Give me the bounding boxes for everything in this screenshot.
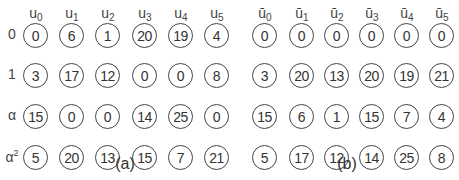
circle-node: 20 — [289, 63, 314, 88]
circle-node: 15 — [252, 104, 277, 129]
circle-node: 7 — [168, 145, 193, 170]
column-label: ū3 — [357, 5, 387, 23]
circle-node: 0 — [324, 23, 349, 48]
row-label: 1 — [4, 66, 20, 82]
column-label-subscript: 4 — [182, 12, 188, 23]
row-label: α — [4, 107, 20, 123]
column-label-base: ū — [400, 5, 408, 21]
column-label-subscript: 0 — [266, 12, 272, 23]
circle-node: 0 — [359, 23, 384, 48]
circle-node: 0 — [289, 23, 314, 48]
column-label-base: u — [65, 5, 73, 21]
circle-node: 8 — [429, 145, 454, 170]
circle-node: 4 — [204, 23, 229, 48]
row-label: 0 — [4, 26, 20, 42]
column-label: u4 — [166, 5, 196, 23]
column-label-subscript: 1 — [303, 12, 309, 23]
column-label: u5 — [202, 5, 232, 23]
circle-node: 0 — [132, 63, 157, 88]
circle-node: 12 — [95, 63, 120, 88]
column-label-base: ū — [435, 5, 443, 21]
panel-caption: (a) — [105, 155, 145, 173]
column-label-base: ū — [365, 5, 373, 21]
circle-node: 15 — [359, 104, 384, 129]
circle-node: 3 — [252, 63, 277, 88]
column-label-base: u — [210, 5, 218, 21]
circle-node: 0 — [23, 23, 48, 48]
circle-node: 20 — [359, 63, 384, 88]
circle-node: 19 — [168, 23, 193, 48]
column-label: ū2 — [322, 5, 352, 23]
column-label: ū1 — [287, 5, 317, 23]
column-label-base: ū — [295, 5, 303, 21]
circle-node: 1 — [324, 104, 349, 129]
circle-node: 3 — [23, 63, 48, 88]
circle-node: 1 — [95, 23, 120, 48]
circle-node: 25 — [394, 145, 419, 170]
column-label-subscript: 3 — [373, 12, 379, 23]
row-label-base: 0 — [8, 26, 16, 42]
column-label-subscript: 2 — [338, 12, 344, 23]
circle-node: 0 — [95, 104, 120, 129]
column-label-subscript: 5 — [218, 12, 224, 23]
row-label-superscript: 2 — [14, 148, 19, 158]
column-label: u2 — [93, 5, 123, 23]
circle-node: 4 — [429, 104, 454, 129]
panel-a: u0u1u2u3u4u501αα206120194317120081500142… — [0, 0, 230, 180]
column-label-subscript: 3 — [146, 12, 152, 23]
circle-node: 0 — [204, 104, 229, 129]
column-label: ū5 — [427, 5, 457, 23]
circle-node: 8 — [204, 63, 229, 88]
circle-node: 0 — [59, 104, 84, 129]
panel-caption: (b) — [327, 155, 367, 173]
circle-node: 19 — [394, 63, 419, 88]
panel-b: ū0ū1ū2ū3ū4ū50000003201320192115611574517… — [230, 0, 459, 180]
row-label: α2 — [4, 148, 20, 165]
column-label: ū4 — [392, 5, 422, 23]
circle-node: 7 — [394, 104, 419, 129]
circle-node: 5 — [23, 145, 48, 170]
column-label-subscript: 1 — [73, 12, 79, 23]
row-label-base: α — [8, 107, 16, 123]
circle-node: 0 — [429, 23, 454, 48]
column-label-subscript: 5 — [443, 12, 449, 23]
column-label: u3 — [130, 5, 160, 23]
circle-node: 25 — [168, 104, 193, 129]
row-label-base: α — [5, 149, 13, 165]
row-label-base: 1 — [8, 66, 16, 82]
column-label-base: ū — [330, 5, 338, 21]
circle-node: 14 — [132, 104, 157, 129]
column-label: ū0 — [250, 5, 280, 23]
column-label-base: u — [174, 5, 182, 21]
circle-node: 15 — [23, 104, 48, 129]
column-label: u0 — [21, 5, 51, 23]
column-label-subscript: 4 — [408, 12, 414, 23]
circle-node: 0 — [394, 23, 419, 48]
column-label-base: u — [138, 5, 146, 21]
column-label-subscript: 2 — [109, 12, 115, 23]
circle-node: 17 — [289, 145, 314, 170]
column-label-base: u — [29, 5, 37, 21]
column-label-subscript: 0 — [37, 12, 43, 23]
circle-node: 6 — [289, 104, 314, 129]
circle-node: 13 — [324, 63, 349, 88]
circle-node: 21 — [204, 145, 229, 170]
column-label-base: ū — [258, 5, 266, 21]
circle-node: 20 — [132, 23, 157, 48]
column-label: u1 — [57, 5, 87, 23]
circle-node: 6 — [59, 23, 84, 48]
circle-node: 17 — [59, 63, 84, 88]
circle-node: 0 — [252, 23, 277, 48]
column-label-base: u — [101, 5, 109, 21]
circle-node: 0 — [168, 63, 193, 88]
circle-node: 20 — [59, 145, 84, 170]
circle-node: 21 — [429, 63, 454, 88]
circle-node: 5 — [252, 145, 277, 170]
